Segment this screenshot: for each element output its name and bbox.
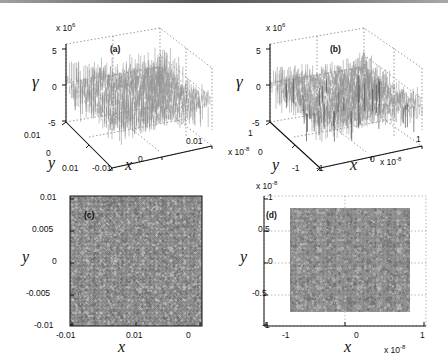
panel-d-x-exponent: x 10-8 [384,344,405,355]
panel-d-xtick-1: 0 [354,330,359,340]
panel-b-zlabel: γ [236,72,243,92]
panel-b-xlabel: x [350,156,357,174]
panel-b-z-exponent: x 106 [266,22,285,33]
panel-b-ztick-mid: 0 [256,82,261,92]
panel-b-ylabel: y [272,156,279,174]
panel-b-ytick-0: 1 [248,128,253,138]
panel-d-xlabel: x [344,338,351,356]
panel-b-ytick-2: -1 [292,163,300,173]
panel-a-ylabel: y [48,154,55,172]
panel-d-ytick-0: 1 [268,192,273,202]
panel-d-ytick-3: -0.5 [252,288,267,298]
panel-c-ytick-1: 0.005 [32,224,53,234]
panel-d-canvas [224,180,448,360]
panel-c-ylabel: y [22,248,29,266]
panel-b-ztick-top: 5 [256,46,261,56]
panel-d-tag: (d) [266,210,277,220]
panel-a-zlabel: γ [32,72,39,92]
panel-a-surface-plot: x 106 (a) 5 0 -5 γ 0.01 0 0.01 y -0.01 0… [0,8,224,180]
panel-c-ytick-0: 0.01 [40,192,57,202]
panel-b-y-exponent: x 10-8 [228,146,249,157]
panel-a-xtick-2: 0.01 [186,136,203,146]
panel-d-xtick-0: -1 [282,330,290,340]
panel-b-xtick-1: 0 [370,154,375,164]
panel-d-ylabel: y [240,248,247,266]
panel-b-ztick-bot: -5 [252,118,260,128]
panel-a-ztick-bot: -5 [48,118,56,128]
panel-c-density-map: 0.01 0.005 0 -0.005 -0.01 y -0.01 0.01 0… [0,180,224,360]
panel-a-ytick-2: 0.01 [62,163,79,173]
panel-d-xtick-2: 1 [420,330,425,340]
panel-b-ytick-1: 0 [258,147,263,157]
panel-b-tag: (b) [330,44,341,54]
panel-a-ztick-mid: 0 [52,82,57,92]
panel-c-xtick-2: 0 [186,330,191,340]
panel-c-xtick-1: 0.01 [126,330,143,340]
panel-b-xtick-2: 1 [416,134,421,144]
panel-c-ytick-3: -0.005 [26,288,50,298]
panel-a-tag: (a) [110,44,120,54]
scan-artifact-band [0,0,448,3]
panel-a-z-exponent: x 106 [56,22,75,33]
panel-b-xtick-0: -1 [316,163,324,173]
panel-d-ytick-1: 0.5 [258,224,270,234]
panel-d-density-map: x 10-8 1 0.5 0 -0.5 -1 y -1 0 1 x 10-8 x… [224,180,448,360]
panel-c-ytick-4: -0.01 [34,320,53,330]
panel-c-ytick-2: 0 [52,256,57,266]
panel-a-canvas [0,8,224,180]
panel-d-y-exponent: x 10-8 [256,180,277,191]
panel-a-xtick-1: 0 [138,154,143,164]
panel-a-xtick-0: -0.01 [92,163,111,173]
panel-c-xtick-0: -0.01 [56,330,75,340]
panel-c-tag: (c) [84,210,94,220]
panel-b-x-exponent: x 10-8 [380,156,401,167]
panel-d-ytick-4: -1 [262,320,270,330]
panel-a-ytick-0: 0.01 [24,130,41,140]
panel-a-ztick-top: 5 [52,46,57,56]
panel-a-xlabel: x [125,156,132,174]
panel-b-surface-plot: x 106 (b) 5 0 -5 γ 1 0 -1 x 10-8 y -1 0 … [224,8,448,180]
panel-d-ytick-2: 0 [268,256,273,266]
panel-c-xlabel: x [118,338,125,356]
